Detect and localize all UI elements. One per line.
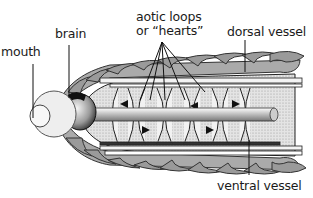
label-dorsal-vessel: dorsal vessel <box>227 25 306 38</box>
label-brain: brain <box>55 27 86 40</box>
label-mouth: mouth <box>1 45 41 58</box>
ventral-vessel-shape <box>100 142 302 155</box>
label-hearts: or “hearts” <box>136 24 203 37</box>
digestive-tube <box>84 108 278 121</box>
label-ventral-vessel: ventral vessel <box>217 179 302 192</box>
dorsal-vessel-shape <box>100 78 302 87</box>
label-aortic-loops: aotic loops <box>136 10 202 23</box>
earthworm-diagram: mouth brain aotic loops or “hearts” dors… <box>0 0 313 198</box>
